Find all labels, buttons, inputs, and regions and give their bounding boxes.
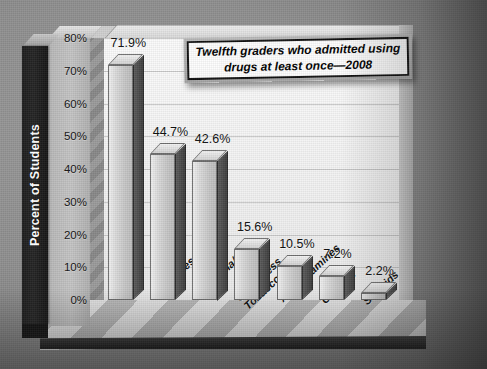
y-axis-tick-label: 30% bbox=[64, 196, 87, 208]
bar-front-face bbox=[192, 161, 217, 301]
bar-side-face bbox=[217, 150, 228, 300]
bar-value-label: 7.2% bbox=[323, 247, 352, 261]
y-axis-tick-label: 20% bbox=[64, 229, 87, 241]
bar-side-face bbox=[259, 239, 270, 300]
chart-floor bbox=[40, 300, 426, 350]
y-axis-tick-label: 0% bbox=[70, 294, 87, 306]
bar-chart-3d: 80%70%60%50%40%30%20%10%0% Percent of St… bbox=[16, 12, 436, 350]
y-axis-tick-label: 40% bbox=[64, 163, 87, 175]
bar-side-face bbox=[175, 143, 186, 300]
bar: 42.6% bbox=[192, 161, 217, 301]
chart-screenshot: 80%70%60%50%40%30%20%10%0% Percent of St… bbox=[0, 0, 487, 369]
y-axis-tick-label: 70% bbox=[64, 65, 87, 77]
bar-side-face bbox=[133, 54, 144, 300]
bar: 15.6% bbox=[234, 249, 259, 300]
bar: 7.2% bbox=[319, 276, 344, 300]
y-axis-tick-label: 10% bbox=[64, 261, 87, 273]
bar-value-label: 10.5% bbox=[279, 237, 314, 251]
y-axis-title-text: Percent of Students bbox=[28, 124, 42, 246]
chart-title-line-2: drugs at least once—2008 bbox=[224, 57, 372, 74]
plot-back-depth bbox=[90, 38, 104, 300]
chart-title-text: Twelfth graders who admitted using drugs… bbox=[195, 41, 400, 76]
bar: 71.9% bbox=[108, 65, 133, 300]
bar-value-label: 44.7% bbox=[153, 125, 188, 139]
chart-title-box: Twelfth graders who admitted using drugs… bbox=[184, 34, 413, 83]
y-axis-title: Percent of Students bbox=[22, 46, 48, 324]
bar: 2.2% bbox=[361, 293, 386, 300]
bar: 44.7% bbox=[150, 154, 175, 300]
y-axis-panel-base bbox=[22, 324, 48, 338]
bar-value-label: 15.6% bbox=[237, 220, 272, 234]
y-axis-tick-label: 50% bbox=[64, 130, 87, 142]
bar-front-face bbox=[234, 249, 259, 300]
bar-value-label: 71.9% bbox=[111, 36, 146, 50]
y-axis-tick-label: 60% bbox=[64, 98, 87, 110]
bar-front-face bbox=[150, 154, 175, 300]
chart-title-inner: Twelfth graders who admitted using drugs… bbox=[187, 37, 410, 80]
bar-front-face bbox=[361, 293, 386, 300]
y-axis-tick-label: 80% bbox=[64, 32, 87, 44]
bar-front-face bbox=[319, 276, 344, 300]
bar: 10.5% bbox=[277, 266, 302, 300]
bar-front-face bbox=[277, 266, 302, 300]
bar-value-label: 2.2% bbox=[365, 264, 394, 278]
bar-front-face bbox=[108, 65, 133, 300]
y-axis-tick-labels: 80%70%60%50%40%30%20%10%0% bbox=[48, 38, 90, 326]
bar-value-label: 42.6% bbox=[195, 132, 230, 146]
